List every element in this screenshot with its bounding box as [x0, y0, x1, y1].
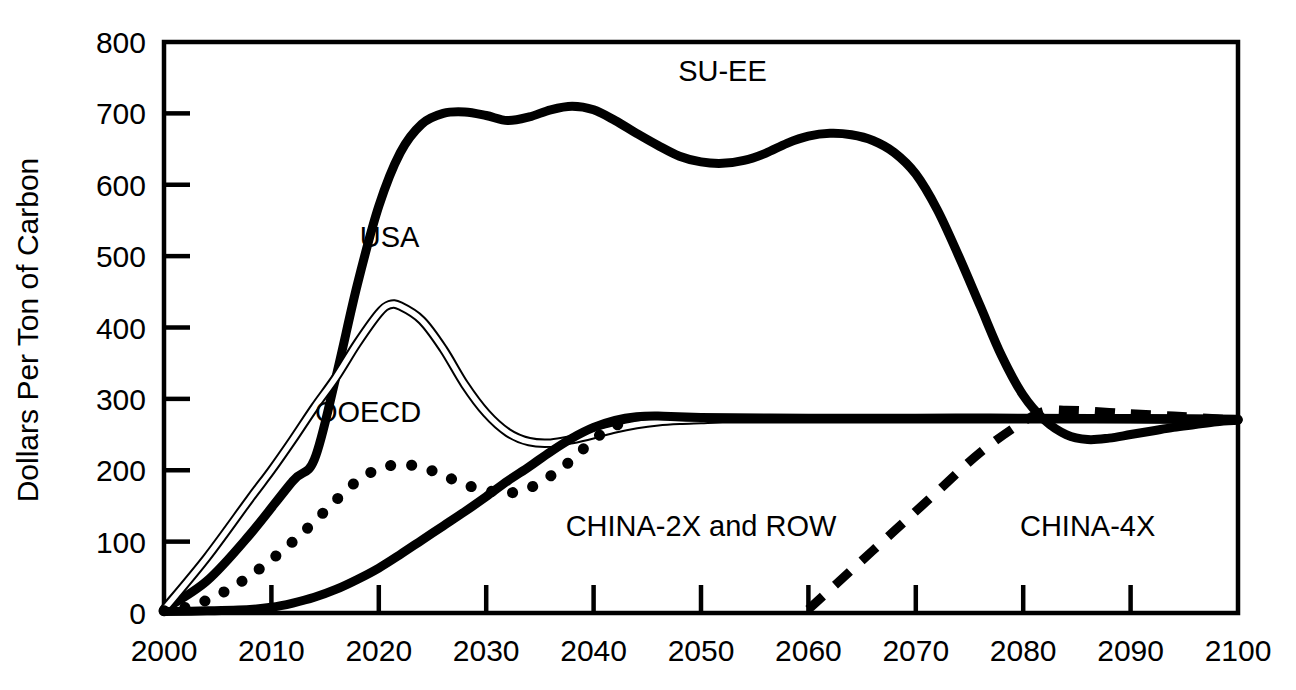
carbon-price-chart: 0100200300400500600700800 20002010202020… — [0, 0, 1296, 690]
series-annotations: SU-EEUSAOOECDCHINA-2X and ROWCHINA-4X — [315, 55, 1155, 542]
y-tick-label: 500 — [96, 240, 146, 273]
x-axis-tick-labels: 2000201020202030204020502060207020802090… — [131, 634, 1272, 667]
y-tick-label: 300 — [96, 383, 146, 416]
x-tick-label: 2010 — [238, 634, 305, 667]
y-tick-label: 100 — [96, 526, 146, 559]
y-tick-label: 400 — [96, 312, 146, 345]
x-tick-label: 2080 — [990, 634, 1057, 667]
series-annotation: CHINA-2X and ROW — [566, 510, 837, 542]
y-tick-label: 0 — [129, 597, 146, 630]
x-tick-label: 2020 — [345, 634, 412, 667]
x-tick-label: 2060 — [775, 634, 842, 667]
y-tick-label: 200 — [96, 454, 146, 487]
y-axis-title: Dollars Per Ton of Carbon — [11, 158, 44, 503]
series-annotation: USA — [360, 221, 420, 253]
x-tick-label: 2030 — [453, 634, 520, 667]
x-tick-label: 2040 — [560, 634, 627, 667]
y-tick-label: 800 — [96, 26, 146, 59]
series-annotation: CHINA-4X — [1020, 510, 1155, 542]
y-axis-ticks — [164, 113, 190, 541]
series-annotation: OOECD — [315, 396, 421, 428]
series-annotation: SU-EE — [678, 55, 767, 87]
y-axis-tick-labels: 0100200300400500600700800 — [96, 26, 146, 630]
x-tick-label: 2090 — [1097, 634, 1164, 667]
y-tick-label: 600 — [96, 169, 146, 202]
y-tick-label: 700 — [96, 97, 146, 130]
series-line-inner — [164, 304, 1238, 610]
x-tick-label: 2000 — [131, 634, 198, 667]
x-axis-ticks — [271, 585, 1130, 613]
series-usa — [164, 304, 1238, 610]
x-tick-label: 2070 — [882, 634, 949, 667]
series-line-outer — [164, 304, 1238, 610]
x-tick-label: 2050 — [668, 634, 735, 667]
chart-container: 0100200300400500600700800 20002010202020… — [0, 0, 1296, 690]
x-tick-label: 2100 — [1205, 634, 1272, 667]
